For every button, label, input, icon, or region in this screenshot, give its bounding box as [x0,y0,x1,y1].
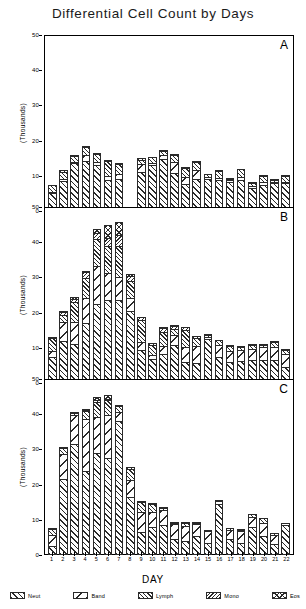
bar-slot [47,208,58,382]
bar-slot [169,380,180,554]
bar-segment-lymph [181,330,190,348]
y-tick-mark [39,520,42,521]
bar-slot [69,208,80,382]
x-axis: 12345678910111213141516171819202122 [44,556,294,572]
bar-segment-neut [170,345,179,383]
bar-slot [180,36,191,210]
stacked-bar [248,339,257,382]
bar-slot [91,380,102,554]
bar-segment-band [70,415,79,445]
plot-area-a [45,36,293,210]
y-tick-label: 10 [32,345,39,351]
bar-slot [225,36,236,210]
bar-slot [280,208,291,382]
bar-slot [69,36,80,210]
bar-slot [102,380,113,554]
bar-segment-neut [126,311,135,383]
chart-legend: NeutBandLymphMonoEos [10,592,300,599]
stacked-bar [148,498,157,554]
bar-slot [91,36,102,210]
bar-segment-band [59,454,68,480]
bar-segment-neut [248,527,257,555]
bar-segment-band [137,512,146,533]
y-tick-label: 10 [32,173,39,179]
stacked-bar [115,400,124,554]
bar-segment-band [104,415,113,459]
stacked-bar [215,166,224,210]
x-tick-label: 18 [239,556,245,562]
y-axis-panel-b: 01020304050(Thousands) [0,207,42,383]
stacked-bar [181,162,190,210]
stacked-bar [259,171,268,210]
bar-slot [125,36,136,210]
y-tick-mark [39,485,42,486]
bar-segment-lymph [104,246,113,274]
y-tick-mark [39,70,42,71]
stacked-bar [59,442,68,554]
bar-slot [114,36,125,210]
stacked-bar [126,269,135,382]
bar-segment-neut [137,350,146,383]
stacked-bar [115,159,124,210]
bar-segment-lymph [70,302,79,323]
bar-segment-band [170,524,179,540]
stacked-bar [259,339,268,382]
bar-segment-neut [93,453,102,555]
legend-swatch-band-icon [73,592,88,599]
stacked-bar [237,164,246,210]
bar-segment-eos [104,225,113,239]
stacked-bar [215,496,224,554]
x-axis-title: DAY [0,574,306,585]
plot-area-c [45,380,293,554]
y-tick-label: 10 [32,517,39,523]
x-tick-label: 20 [261,556,267,562]
bar-segment-band [259,347,268,361]
stacked-bar [281,345,290,382]
legend-item-mono: Mono [206,592,239,599]
stacked-bar [170,149,179,210]
bar-segment-lymph [126,281,135,299]
bar-segment-neut [148,527,157,555]
bar-slot [136,208,147,382]
y-tick-mark [39,242,42,243]
y-tick-label: 40 [32,67,39,73]
y-tick-label: 50 [32,32,39,38]
stacked-bar [82,404,91,554]
panel-b: B [44,207,294,383]
bar-slot [213,208,224,382]
y-axis-label: (Thousands) [19,427,26,507]
x-tick-label: 16 [216,556,222,562]
bar-segment-neut [126,497,135,555]
bar-segment-band [93,417,102,454]
bar-slot [280,380,291,554]
legend-item-band: Band [73,592,105,599]
bar-slot [269,380,280,554]
stacked-bar [82,266,91,382]
bar-slot [180,380,191,554]
bar-slot [191,208,202,382]
bar-segment-neut [281,525,290,555]
bar-segment-lymph [104,161,113,177]
bar-slot [158,36,169,210]
stacked-bar [270,528,279,554]
y-tick-label: 20 [32,310,39,316]
stacked-bar [281,170,290,210]
legend-item-lymph: Lymph [138,592,173,599]
y-axis-panel-c: 01020304050(Thousands) [0,379,42,555]
chart-title: Differential Cell Count by Days [0,6,306,21]
bar-slot [169,208,180,382]
y-tick-label: 20 [32,138,39,144]
bar-slot [258,36,269,210]
y-tick-mark [39,555,42,556]
bar-slot [147,36,158,210]
x-tick-label: 4 [84,556,87,562]
bar-slot [114,208,125,382]
y-axis-label: (Thousands) [19,255,26,335]
bar-segment-band [281,354,290,368]
stacked-bar [59,306,68,382]
legend-label: Mono [224,593,239,599]
stacked-bar [148,152,157,210]
y-tick-label: 50 [32,204,39,210]
bar-slot [69,380,80,554]
x-tick-label: 19 [250,556,256,562]
